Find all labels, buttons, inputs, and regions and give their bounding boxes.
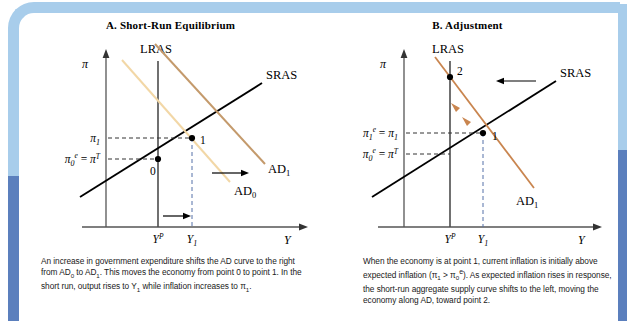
x-axis-label: Y: [578, 233, 586, 247]
point-1-label: 1: [492, 130, 498, 142]
y-tick-pi1: π1: [90, 132, 100, 147]
point-2-marker: [447, 74, 453, 80]
panel-short-run-equilibrium: A. Short-Run Equilibrium π Y LRAS SRAS A…: [22, 13, 319, 253]
caption-a-line4-post: .: [249, 281, 251, 291]
x-tick-y1: Y1: [478, 233, 488, 248]
decorative-frame-right-light: [618, 4, 627, 152]
caption-b-line2-post: ). As expected inflation rises: [463, 270, 565, 280]
sras-label: SRAS: [560, 66, 591, 80]
point-2-label: 2: [457, 65, 463, 77]
figure-container: A. Short-Run Equilibrium π Y LRAS SRAS A…: [0, 0, 627, 321]
sras-shift-left-arrow: [496, 78, 536, 84]
x-tick-yp: YP: [445, 232, 456, 245]
caption-a-line2-mid: to AD: [74, 267, 96, 277]
caption-panel-b: When the economy is at point 1, current …: [363, 256, 618, 306]
y-axis-label: π: [82, 57, 89, 71]
ad-shift-arrow: [212, 170, 249, 176]
ad0-label: AD0: [234, 184, 256, 200]
y-tick-pi0e: π0e = πT: [363, 146, 399, 163]
x-axis-arrowhead: [299, 224, 308, 231]
caption-a-line4-pre: inflation increases to π: [163, 281, 245, 291]
caption-b-line1: When the economy is at point 1, current …: [363, 256, 573, 266]
point-1-marker: [189, 135, 195, 141]
caption-a-line3-post: while: [140, 281, 161, 291]
caption-b-sub-pi0: 0: [456, 274, 459, 281]
caption-panel-a: An increase in government expenditure sh…: [41, 256, 303, 296]
x-axis-arrowhead: [593, 224, 602, 231]
sras-curve: [80, 83, 262, 197]
svg-text:π0e = πT: π0e = πT: [65, 151, 101, 168]
y-axis-arrowhead: [103, 49, 110, 58]
ad1-label: AD1: [516, 194, 538, 210]
y-tick-pi0e: π0e = πT: [65, 151, 101, 168]
ad1-label: AD1: [268, 162, 290, 178]
point-0-marker: [155, 156, 161, 162]
x-tick-y1: Y1: [187, 233, 197, 248]
panel-a-chart: π Y LRAS SRAS AD0 AD1 0 1 π1: [22, 13, 319, 253]
panel-adjustment: B. Adjustment π Y LRAS SRAS AD1: [320, 13, 615, 253]
caption-a-line1: An increase in government expenditure sh…: [41, 256, 254, 266]
output-shift-arrow: [163, 213, 191, 219]
panel-b-chart: π Y LRAS SRAS AD1 2 1 π1e = π1 π0e = πT: [320, 13, 615, 253]
y-axis-arrowhead: [401, 49, 408, 58]
lras-label: LRAS: [432, 42, 464, 56]
point-1-label: 1: [200, 134, 206, 146]
x-tick-yp: YP: [153, 232, 164, 245]
adjustment-arrow-upper: [451, 103, 460, 112]
caption-b-line2-mid: > π: [441, 270, 456, 280]
y-tick-pi1e: π1e = π1: [363, 125, 398, 142]
y-axis-label: π: [380, 57, 387, 71]
point-1-marker: [480, 130, 486, 136]
x-axis-label: Y: [284, 233, 292, 247]
decorative-frame-dark: [8, 176, 19, 321]
adjustment-arrow-lower: [462, 117, 471, 126]
ad0-curve: [122, 60, 230, 182]
point-0-label: 0: [150, 165, 156, 177]
caption-a-line2-post: . This moves the economy from: [100, 267, 214, 277]
ad1-curve: [155, 44, 265, 164]
sras-label: SRAS: [266, 68, 297, 82]
decorative-frame-right-dark: [618, 150, 627, 321]
